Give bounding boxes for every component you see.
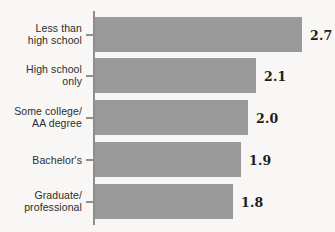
bar-value-label: 2.7	[310, 27, 332, 42]
axis-tick	[86, 159, 93, 161]
category-label: High school only	[0, 63, 82, 88]
bar-value-label: 1.8	[241, 194, 263, 209]
category-label: Some college/ AA degree	[0, 105, 82, 130]
category-label: Less than high school	[0, 22, 82, 47]
bar[interactable]	[95, 100, 248, 135]
chart-row: Graduate/ professional 1.8	[0, 184, 335, 219]
bar-value-label: 2.0	[256, 110, 278, 125]
category-label: Graduate/ professional	[0, 189, 82, 214]
chart-row: Less than high school 2.7	[0, 17, 335, 52]
axis-tick	[86, 201, 93, 203]
chart-row: High school only 2.1	[0, 58, 335, 93]
category-label: Bachelor's	[0, 153, 82, 166]
plot-area: Less than high school 2.7 High school on…	[0, 0, 335, 232]
bar[interactable]	[95, 184, 233, 219]
bar-value-label: 1.9	[249, 152, 271, 167]
bar[interactable]	[95, 58, 256, 93]
axis-tick	[86, 34, 93, 36]
bar-chart: Less than high school 2.7 High school on…	[0, 0, 335, 232]
chart-row: Some college/ AA degree 2.0	[0, 100, 335, 135]
bar[interactable]	[95, 142, 241, 177]
bar-value-label: 2.1	[264, 68, 286, 83]
axis-tick	[86, 75, 93, 77]
chart-row: Bachelor's 1.9	[0, 142, 335, 177]
axis-tick	[86, 117, 93, 119]
bar[interactable]	[95, 17, 302, 52]
